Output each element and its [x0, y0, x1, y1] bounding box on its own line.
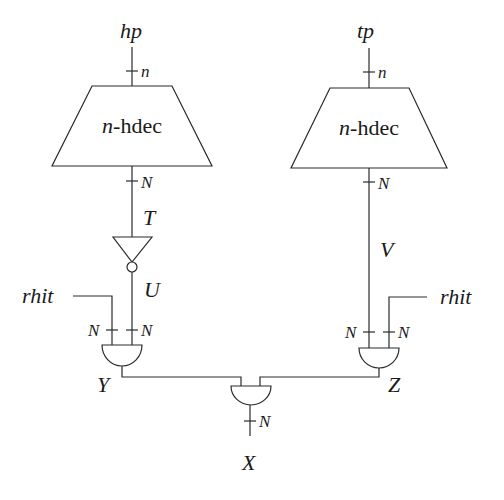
bus-width-label: N: [377, 174, 391, 193]
signal-label-rhit-left: rhit: [22, 283, 54, 308]
inverter-bubble: [127, 262, 137, 272]
bus-width-label: n: [141, 62, 150, 81]
circuit-diagram: hp n n-hdec N T U rhit N N Y tp n n-hdec…: [0, 0, 504, 500]
input-label-hp: hp: [120, 18, 142, 43]
signal-label-T: T: [143, 205, 157, 230]
bus-width-label: n: [378, 63, 387, 82]
signal-label-X: X: [241, 450, 257, 475]
wire-Y: [122, 366, 241, 386]
bus-width-label: N: [140, 173, 154, 192]
bus-width-label: N: [87, 321, 101, 340]
bus-width-label: N: [344, 323, 358, 342]
signal-label-Z: Z: [388, 372, 401, 397]
bus-width-label: N: [397, 323, 411, 342]
signal-label-rhit-right: rhit: [440, 284, 472, 309]
bus-width-label: N: [258, 412, 272, 431]
signal-label-U: U: [144, 277, 162, 302]
and-gate-Y: [102, 345, 142, 366]
and-gate-Z: [359, 348, 399, 368]
bus-width-label: N: [140, 321, 154, 340]
decoder-left-label: n-hdec: [102, 113, 162, 138]
inverter: [113, 237, 152, 262]
signal-label-Y: Y: [97, 372, 112, 397]
and-gate-X: [231, 386, 271, 405]
signal-label-V: V: [380, 237, 396, 262]
input-label-tp: tp: [357, 18, 374, 43]
wire-Z: [260, 368, 379, 386]
decoder-right-label: n-hdec: [339, 115, 399, 140]
